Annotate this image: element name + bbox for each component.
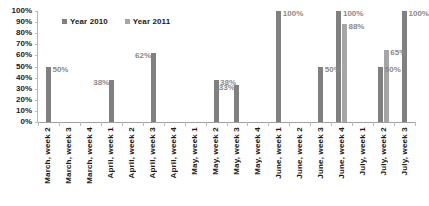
y-axis-tick-label: 60% <box>16 51 32 59</box>
bar[interactable] <box>342 24 347 122</box>
x-axis-category-label: April, week 3 <box>148 127 157 179</box>
x-axis-labels: March, week 2March, week 3March, week 4A… <box>37 127 414 206</box>
bar[interactable] <box>402 11 407 122</box>
x-axis-category-label: June, week 4 <box>337 127 346 179</box>
x-axis-tick <box>164 122 165 126</box>
legend-swatch-icon <box>125 19 130 24</box>
y-axis-tick-label: 0% <box>20 118 32 126</box>
bar[interactable] <box>318 67 323 123</box>
legend-label: Year 2011 <box>133 17 170 26</box>
x-axis-tick <box>122 122 123 126</box>
bar-data-label: 62% <box>135 52 151 60</box>
x-axis-category-label: April, week 4 <box>169 127 178 179</box>
bar[interactable] <box>109 80 114 122</box>
y-axis-tick-label: 80% <box>16 29 32 37</box>
y-axis-tick-label: 50% <box>16 63 32 71</box>
legend-label: Year 2010 <box>70 17 108 26</box>
legend-item-0[interactable]: Year 2010 <box>62 17 108 26</box>
x-axis-category-label: May, week 3 <box>232 127 241 175</box>
x-axis-tick <box>206 122 207 126</box>
x-axis-category-label: May, week 1 <box>190 127 199 175</box>
bar-data-label: 88% <box>348 23 364 31</box>
x-axis-tick <box>352 122 353 126</box>
bar-data-label: 100% <box>283 10 303 18</box>
x-axis-category-label: April, week 1 <box>106 127 115 179</box>
bar[interactable] <box>151 53 156 122</box>
y-axis-tick-label: 20% <box>16 96 32 104</box>
x-axis-tick <box>247 122 248 126</box>
x-axis-tick <box>373 122 374 126</box>
bar-data-label: 50% <box>52 66 68 74</box>
x-axis-tick <box>143 122 144 126</box>
x-axis-tick <box>185 122 186 126</box>
x-axis-category-label: July, week 3 <box>400 127 409 176</box>
y-axis-tick-label: 40% <box>16 74 32 82</box>
x-axis-tick <box>38 122 39 126</box>
bar[interactable] <box>214 80 219 122</box>
bar[interactable] <box>46 67 51 123</box>
x-axis-category-label: July, week 1 <box>358 127 367 176</box>
x-axis-tick <box>80 122 81 126</box>
bar[interactable] <box>234 85 239 122</box>
bar[interactable] <box>378 67 383 123</box>
x-axis-category-label: June, week 3 <box>316 127 325 179</box>
x-axis-tick <box>394 122 395 126</box>
x-axis-tick <box>227 122 228 126</box>
x-axis-category-label: July, week 2 <box>379 127 388 176</box>
legend-swatch-icon <box>62 19 67 24</box>
y-axis-tick-label: 30% <box>16 85 32 93</box>
x-axis-category-label: May, week 4 <box>253 127 262 175</box>
x-axis-tick <box>101 122 102 126</box>
bar-data-label: 38% <box>93 79 109 87</box>
bar-data-label: 65% <box>390 49 406 57</box>
x-axis-tick <box>59 122 60 126</box>
bar-data-label: 33% <box>219 84 235 92</box>
x-axis-category-label: May, week 2 <box>211 127 220 175</box>
x-axis-category-label: June, week 2 <box>295 127 304 179</box>
x-axis-tick <box>268 122 269 126</box>
x-axis-tick <box>310 122 311 126</box>
y-axis-tick-label: 10% <box>16 107 32 115</box>
bar-data-label: 100% <box>343 10 363 18</box>
y-axis-tick-label: 70% <box>16 40 32 48</box>
bar-data-label: 100% <box>409 10 429 18</box>
x-axis-tick <box>289 122 290 126</box>
bar[interactable] <box>276 11 281 122</box>
bar-data-label: 50% <box>325 66 341 74</box>
y-axis: 100%90%80%70%60%50%40%30%20%10%0% <box>0 11 34 122</box>
bar-data-label: 50% <box>385 66 401 74</box>
x-axis-tick <box>331 122 332 126</box>
chart-legend: Year 2010Year 2011 <box>62 17 170 26</box>
plot-area: 50%38%62%38%33%100%50%100%88%50%65%100% <box>37 11 415 123</box>
x-axis-category-label: March, week 4 <box>85 127 94 184</box>
x-axis-category-label: March, week 3 <box>64 127 73 184</box>
y-axis-tick-label: 100% <box>12 7 32 15</box>
x-axis-category-label: March, week 2 <box>43 127 52 184</box>
bars-layer: 50%38%62%38%33%100%50%100%88%50%65%100% <box>38 11 415 122</box>
y-axis-tick-label: 90% <box>16 18 32 26</box>
bar[interactable] <box>384 50 389 122</box>
x-axis-category-label: June, week 1 <box>274 127 283 179</box>
legend-item-1[interactable]: Year 2011 <box>125 17 170 26</box>
x-axis-category-label: April, week 2 <box>127 127 136 179</box>
x-axis-tick <box>415 122 416 126</box>
